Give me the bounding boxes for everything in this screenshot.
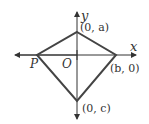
vertex-label-right: (b, 0) (110, 62, 140, 75)
origin-label: O (62, 57, 72, 71)
vertex-label-p: P (29, 57, 39, 71)
vertex-label-top: (0, a) (80, 21, 109, 34)
vertex-label-bottom: (0, c) (82, 102, 111, 115)
x-axis-label: x (130, 39, 138, 54)
coordinate-diagram: y x O (0, a) (b, 0) (0, c) P (0, 0, 149, 124)
